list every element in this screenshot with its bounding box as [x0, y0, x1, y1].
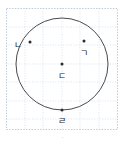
- point-label-digeut: ㄷ: [58, 72, 66, 81]
- figure-root: ㄱ ㄴ ㄷ ㄹ ·: [0, 0, 125, 152]
- point-marker-nieun: [29, 41, 32, 44]
- point-marker-digeut-center: [61, 63, 64, 66]
- point-label-nieun: ㄴ: [14, 41, 22, 50]
- caption-mark: ·: [0, 134, 125, 142]
- points-layer: ㄱ ㄴ ㄷ ㄹ: [6, 8, 118, 130]
- point-marker-rieul: [61, 109, 64, 112]
- point-label-giyeok: ㄱ: [80, 49, 88, 58]
- graph-paper-panel: ㄱ ㄴ ㄷ ㄹ: [6, 8, 118, 130]
- point-label-rieul: ㄹ: [58, 117, 66, 126]
- point-marker-giyeok: [83, 40, 86, 43]
